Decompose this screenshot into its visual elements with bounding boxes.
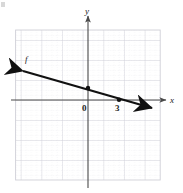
graph-figure: y x 0 3 f: [0, 0, 183, 193]
x-axis-label: x: [170, 96, 174, 105]
y-axis-label: y: [85, 7, 89, 16]
point-y-intercept: [86, 86, 90, 90]
function-label-f: f: [25, 55, 28, 64]
coordinate-plane: [0, 0, 183, 193]
point-x-intercept: [117, 98, 121, 102]
origin-label: 0: [82, 104, 87, 113]
x-intercept-tick-label: 3: [115, 104, 120, 113]
